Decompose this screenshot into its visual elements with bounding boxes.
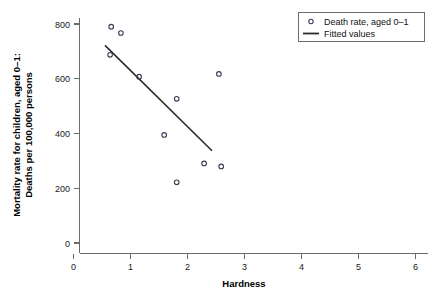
x-tick-label-1: 1 <box>128 262 133 272</box>
data-point-marker <box>174 97 179 102</box>
data-point-marker <box>217 72 222 77</box>
data-point-marker <box>202 161 207 166</box>
x-tick-label-2: 2 <box>185 262 190 272</box>
y-tick-label-0: 0 <box>65 239 70 249</box>
y-tick-label-400: 400 <box>55 129 70 139</box>
legend-label-death-rate: Death rate, aged 0–1 <box>324 17 409 27</box>
plot-canvas: 800 600 400 200 0 0 1 2 3 4 5 6 Hardness… <box>0 0 435 299</box>
y-tick-label-600: 600 <box>55 74 70 84</box>
y-tick-label-200: 200 <box>55 184 70 194</box>
x-tick-label-0: 0 <box>71 262 76 272</box>
x-tick-label-3: 3 <box>242 262 247 272</box>
fitted-values-line <box>105 45 212 150</box>
x-tick-label-4: 4 <box>299 262 304 272</box>
data-point-marker <box>109 24 114 29</box>
data-point-marker <box>108 53 113 58</box>
x-axis-title: Hardness <box>222 278 265 289</box>
legend-label-fitted-values: Fitted values <box>324 29 376 39</box>
y-axis-title-line2: Deaths per 100,000 persons <box>23 72 34 198</box>
x-tick-label-6: 6 <box>413 262 418 272</box>
y-axis-title-line1: Mortality rate for children, aged 0–1: <box>11 53 22 217</box>
legend: Death rate, aged 0–1 Fitted values <box>299 13 425 42</box>
data-point-marker <box>162 133 167 138</box>
y-tick-label-800: 800 <box>55 20 70 30</box>
data-point-marker <box>174 180 179 185</box>
data-point-marker <box>219 164 224 169</box>
data-point-marker <box>119 31 124 36</box>
scatter-plot-figure: 800 600 400 200 0 0 1 2 3 4 5 6 Hardness… <box>0 0 435 299</box>
x-tick-label-5: 5 <box>356 262 361 272</box>
